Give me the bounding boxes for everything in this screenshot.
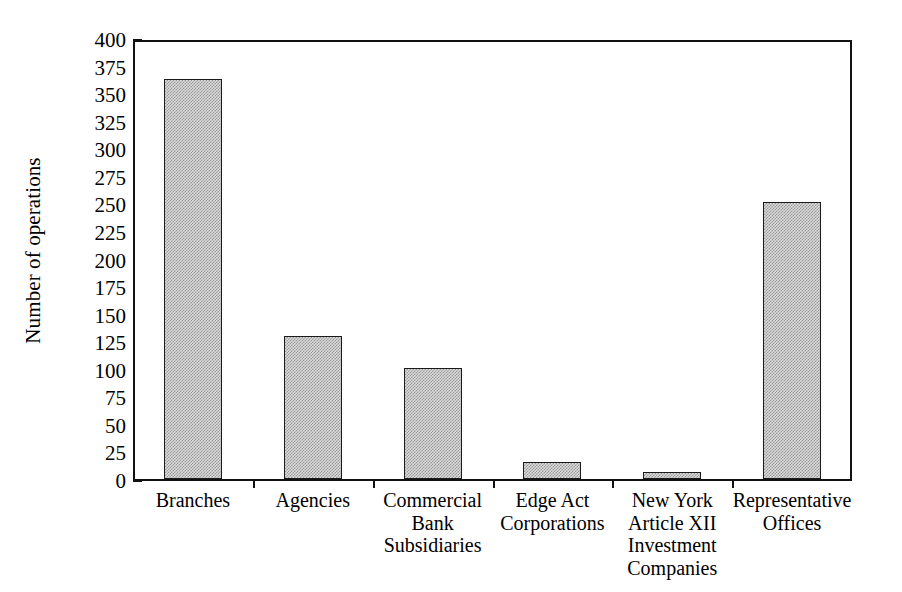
x-axis-category-label: Edge Act Corporations: [493, 489, 613, 534]
y-axis-tick-label: 375: [40, 57, 126, 78]
x-axis-tick-mark: [732, 479, 734, 488]
x-axis-category-label: Commercial Bank Subsidiaries: [373, 489, 493, 557]
bar: [523, 462, 581, 479]
x-axis-category-label: New York Article XII Investment Companie…: [612, 489, 732, 579]
bar: [284, 336, 342, 479]
bar: [763, 202, 821, 479]
y-axis-tick-label: 400: [40, 30, 126, 51]
y-axis-tick-label: 125: [40, 333, 126, 354]
bar: [643, 472, 701, 479]
y-axis-tick-label: 250: [40, 195, 126, 216]
y-axis-tick-label: 0: [40, 471, 126, 492]
y-axis-tick-label: 175: [40, 278, 126, 299]
x-axis-category-label: Representative Offices: [732, 489, 852, 534]
x-axis-category-label: Branches: [133, 489, 253, 512]
x-axis-tick-mark: [373, 479, 375, 488]
y-axis-tick-label: 300: [40, 140, 126, 161]
x-axis-tick-mark: [612, 479, 614, 488]
y-axis-tick-label: 25: [40, 443, 126, 464]
x-axis-tick-mark: [493, 479, 495, 488]
x-axis-tick-mark: [253, 479, 255, 488]
y-axis-tick-label: 100: [40, 360, 126, 381]
plot-area: [133, 40, 852, 481]
y-axis-tick-label: 150: [40, 305, 126, 326]
y-axis-tick-label: 225: [40, 222, 126, 243]
y-axis-tick-label: 350: [40, 85, 126, 106]
bar-chart: Number of operations 0255075100125150175…: [0, 0, 902, 592]
y-axis-tick-label: 275: [40, 167, 126, 188]
y-axis-tick-label: 200: [40, 250, 126, 271]
y-axis-title: Number of operations: [23, 101, 44, 401]
y-axis-tick-label: 325: [40, 112, 126, 133]
y-axis-tick-label: 50: [40, 415, 126, 436]
bar: [164, 79, 222, 479]
y-axis-tick-label: 75: [40, 388, 126, 409]
bar: [404, 368, 462, 479]
x-axis-category-label: Agencies: [253, 489, 373, 512]
